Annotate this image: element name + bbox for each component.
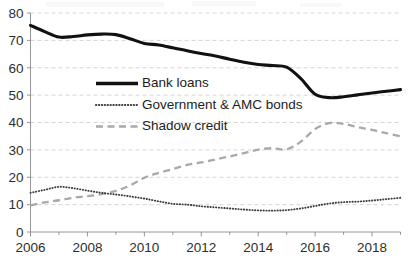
- x-axis-tick-label: 2010: [129, 240, 159, 255]
- x-axis-tick-label: 2016: [300, 240, 330, 255]
- x-axis-tick-labels: 2006200820102012201420162018: [15, 240, 387, 255]
- series-line-government-amc-bonds: [31, 187, 401, 211]
- line-chart-canvas: 01020304050607080 2006200820102012201420…: [0, 0, 409, 260]
- y-axis-tick-label: 70: [8, 33, 23, 48]
- y-axis-tick-label: 60: [8, 61, 23, 76]
- y-axis-tick-label: 10: [8, 197, 23, 212]
- legend-label-shadow-credit: Shadow credit: [142, 118, 228, 133]
- series-line-shadow-credit: [31, 123, 401, 206]
- legend-label-government-amc-bonds: Government & AMC bonds: [142, 97, 303, 112]
- x-axis-tick-label: 2018: [357, 240, 387, 255]
- y-axis-tick-label: 50: [8, 88, 23, 103]
- x-axis-tick-label: 2008: [72, 240, 102, 255]
- y-axis-tick-label: 30: [8, 143, 23, 158]
- y-axis-tick-label: 20: [8, 170, 23, 185]
- x-axis-tick-label: 2014: [243, 240, 274, 255]
- x-axis-tick-label: 2006: [15, 240, 45, 255]
- y-axis-tick-label: 40: [8, 115, 23, 130]
- x-axis-ticks: [31, 232, 401, 237]
- chart-figure: 01020304050607080 2006200820102012201420…: [0, 0, 409, 260]
- series-line-bank-loans: [31, 25, 401, 97]
- legend-label-bank-loans: Bank loans: [142, 75, 209, 90]
- x-axis-tick-label: 2012: [186, 240, 216, 255]
- chart-legend: Bank loansGovernment & AMC bondsShadow c…: [96, 75, 303, 133]
- y-axis-tick-label: 0: [16, 225, 24, 240]
- y-axis-ticks: [27, 13, 31, 232]
- y-axis-tick-label: 80: [8, 6, 23, 21]
- y-axis-tick-labels: 01020304050607080: [8, 6, 23, 240]
